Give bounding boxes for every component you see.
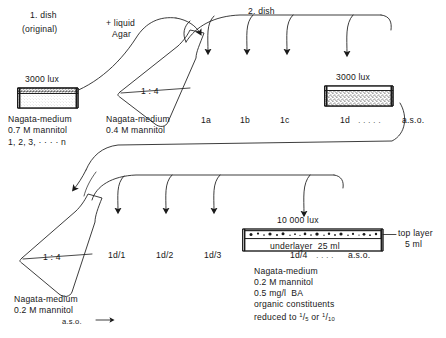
- diagram-artwork: [0, 0, 446, 338]
- dish1-lux-label: 3000 lux: [25, 74, 59, 85]
- row1-item-1c: 1c: [280, 115, 289, 126]
- row2-dots: · · · ·: [316, 252, 334, 263]
- row1-item-1a: 1a: [201, 115, 211, 126]
- manifold-row1: [186, 15, 381, 42]
- final-note-organic: organic constituents: [254, 299, 334, 310]
- branch-1d: [347, 15, 353, 54]
- stage1-title: 1. dish: [30, 10, 57, 21]
- branch-1d4: [304, 175, 310, 214]
- fraction-one-fifth: 1/5: [299, 312, 309, 322]
- branch-1c: [287, 15, 293, 52]
- stage1-subtitle: (original): [22, 24, 57, 35]
- branch-1b: [247, 15, 253, 52]
- reduced-mid: or: [309, 312, 322, 322]
- diagram-canvas: 1. dish (original) + liquid Agar 2. dish…: [0, 0, 446, 338]
- final-note-ba: 0.5 mg/l BA: [254, 288, 303, 299]
- final-note-reduced: reduced to 1/5 or 1/10: [254, 310, 335, 324]
- dish1-series-label: 1, 2, 3, · · · · n: [8, 137, 66, 148]
- petri-dish-1: [18, 88, 78, 108]
- dish1-mannitol-label: 0.7 M mannitol: [8, 125, 67, 136]
- underlayer-label: underlayer 25 ml: [270, 241, 340, 252]
- flask-1-outline: [118, 30, 204, 126]
- fraction-one-tenth: 1/10: [322, 312, 335, 322]
- branch-1a: [208, 16, 214, 52]
- final-note-mannitol: 0.2 M mannitol: [254, 277, 313, 288]
- row1-item-1d: 1d: [340, 115, 350, 126]
- additive-label-liquid: + liquid: [106, 18, 135, 29]
- row1-dots: · · · · ·: [358, 117, 381, 128]
- dish1d-lux-label: 3000 lux: [336, 72, 370, 83]
- branch-1d2: [166, 175, 172, 211]
- final-dish-lux-label: 10 000 lux: [277, 215, 319, 226]
- flask2-mannitol-label: 0.2 M mannitol: [14, 305, 73, 316]
- branch-1d3: [214, 175, 220, 211]
- flask-2-outline: [20, 194, 102, 296]
- flask1-ratio-label: 1 : 4: [141, 86, 159, 97]
- flask2-aso: a.s.o.: [62, 316, 82, 327]
- row1-item-1b: 1b: [240, 115, 250, 126]
- top-layer-volume-label: 5 ml: [405, 239, 422, 250]
- branch-1d1: [118, 176, 124, 211]
- petri-dish-1d: [325, 86, 393, 106]
- additive-label-agar: Agar: [112, 29, 131, 40]
- stage2-title: 2. dish: [248, 6, 275, 17]
- manifold-row2: [92, 175, 334, 200]
- flask2-medium-label: Nagata-medium: [14, 294, 78, 305]
- dish1-medium-label: Nagata-medium: [8, 114, 72, 125]
- row2-item-1d1: 1d/1: [108, 250, 126, 261]
- row2-aso: a.s.o.: [348, 250, 370, 261]
- top-layer-label: top layer: [398, 228, 433, 239]
- flask1-mannitol-label: 0.4 M mannitol: [106, 125, 165, 136]
- flask1-medium-label: Nagata-medium: [106, 114, 170, 125]
- reduced-prefix: reduced to: [254, 312, 299, 322]
- row1-aso: a.s.o.: [402, 115, 424, 126]
- flask2-ratio-label: 1 : 4: [43, 252, 61, 263]
- row2-item-1d2: 1d/2: [156, 250, 174, 261]
- final-note-medium: Nagata-medium: [254, 266, 318, 277]
- row2-item-1d3: 1d/3: [204, 250, 222, 261]
